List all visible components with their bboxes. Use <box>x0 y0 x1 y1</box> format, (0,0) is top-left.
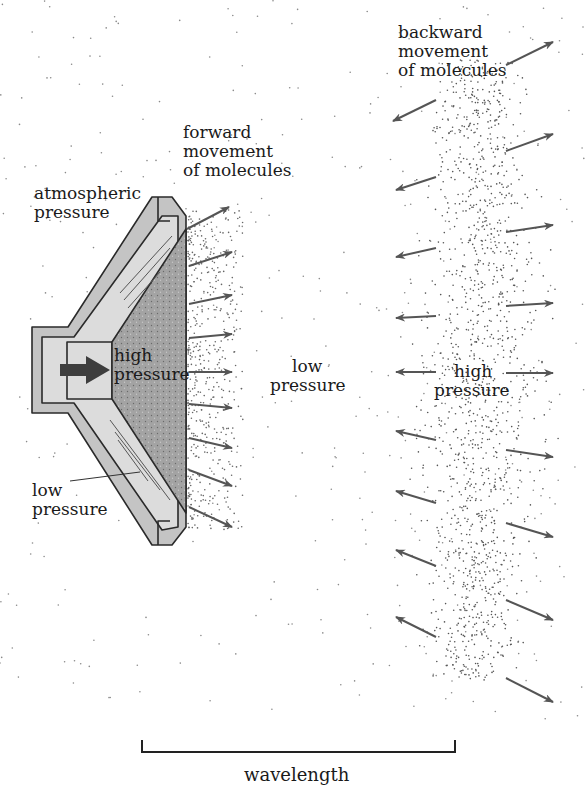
arrow <box>396 177 436 190</box>
forward-movement-label: forward movement of molecules <box>183 123 291 180</box>
label-line: pressure <box>434 381 510 400</box>
arrow <box>506 600 553 620</box>
label-line: low <box>270 357 346 376</box>
right-high-pressure-label: high pressure <box>434 362 510 400</box>
arrow <box>393 100 436 121</box>
arrow <box>396 491 436 503</box>
arrow <box>396 248 436 257</box>
label-line: pressure <box>270 376 346 395</box>
label-line: pressure <box>34 203 141 222</box>
speaker-low-pressure-label: low pressure <box>32 481 108 519</box>
wavelength-bracket <box>142 740 455 752</box>
diagram-artwork <box>0 0 586 804</box>
arrow <box>506 134 553 151</box>
sound-wave-diagram: backward movement of molecules forward m… <box>0 0 586 804</box>
label-line: backward <box>398 23 506 42</box>
arrow <box>506 678 553 702</box>
middle-low-pressure-label: low pressure <box>270 357 346 395</box>
label-line: high <box>114 346 190 365</box>
outward-arrows <box>506 42 553 702</box>
arrow <box>396 550 436 566</box>
label-line: pressure <box>32 500 108 519</box>
arrow <box>189 438 232 448</box>
label-line: high <box>434 362 510 381</box>
label-line: forward <box>183 123 291 142</box>
arrow <box>189 334 232 338</box>
label-line: pressure <box>114 365 190 384</box>
label-line: atmospheric <box>34 184 141 203</box>
arrow <box>506 450 553 457</box>
arrow <box>187 207 229 229</box>
label-line: movement <box>398 42 506 61</box>
arrow <box>189 507 232 527</box>
speaker-high-pressure-label: high pressure <box>114 346 190 384</box>
label-line: of molecules <box>183 161 291 180</box>
label-line: movement <box>183 142 291 161</box>
wavelength-label: wavelength <box>244 765 349 784</box>
arrow <box>506 225 553 232</box>
label-line: low <box>32 481 108 500</box>
arrow <box>396 617 436 637</box>
atmospheric-pressure-label: atmospheric pressure <box>34 184 141 222</box>
arrow <box>189 295 232 304</box>
label-line: of molecules <box>398 61 506 80</box>
arrow <box>506 42 553 65</box>
arrow <box>396 316 436 318</box>
backward-movement-label: backward movement of molecules <box>398 23 506 80</box>
arrow <box>506 523 553 537</box>
arrow <box>506 303 553 306</box>
